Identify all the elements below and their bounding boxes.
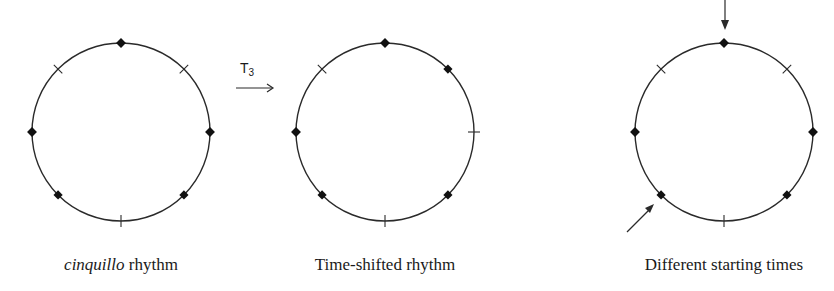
rhythm-circle-cinquillo (27, 38, 215, 227)
rhythm-circle-time-shifted (291, 38, 480, 227)
caption-cinquillo: cinquillo rhythm (64, 255, 178, 275)
rhythm-diagrams (0, 0, 834, 291)
transform-arrow (236, 84, 273, 92)
rhythm-circle-different-starting-times (630, 38, 818, 227)
onset-marker (205, 127, 215, 137)
onset-marker (116, 38, 126, 48)
caption-different-starting-times: Different starting times (645, 255, 803, 275)
onset-marker (630, 127, 640, 137)
start-arrow-top (721, 0, 729, 30)
onset-marker (27, 127, 37, 137)
caption-time-shifted: Time-shifted rhythm (315, 255, 456, 275)
onset-marker (719, 38, 729, 48)
onset-marker (808, 127, 818, 137)
figures-layer (27, 38, 818, 227)
onset-marker (291, 127, 301, 137)
transform-label: T3 (240, 60, 254, 78)
start-arrow-lower-left (627, 204, 654, 232)
onset-marker (380, 38, 390, 48)
